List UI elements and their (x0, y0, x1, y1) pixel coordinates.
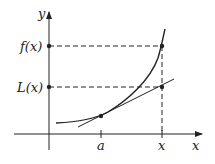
y-axis-label: y (37, 6, 46, 21)
tangent-line (78, 79, 174, 127)
point-yaxis-fx (47, 44, 51, 48)
x-tick-label: x (158, 138, 166, 153)
x-axis-label: x (192, 138, 200, 153)
Lx-label: L(x) (16, 80, 43, 95)
linear-approximation-diagram: y x f(x) L(x) a x (0, 0, 215, 164)
point-a-fa (99, 114, 103, 118)
point-yaxis-Lx (47, 85, 51, 89)
curve-f (56, 29, 165, 123)
point-x-Lx (160, 85, 164, 89)
fx-label: f(x) (19, 39, 42, 54)
a-label: a (97, 138, 105, 153)
point-x-fx (160, 44, 164, 48)
